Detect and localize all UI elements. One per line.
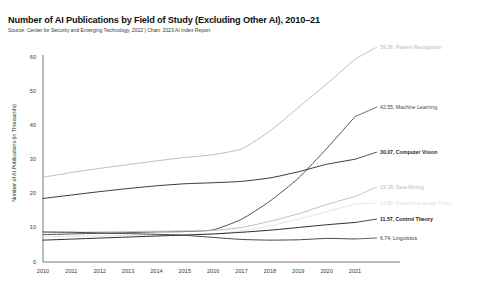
y-axis-tick: 40: [14, 122, 36, 128]
label-leader-line: [355, 107, 377, 117]
x-axis-tick: 2010: [28, 268, 58, 274]
series-end-label: 19.18, Data Mining: [380, 184, 424, 190]
label-leader-line: [355, 203, 377, 204]
x-axis-tick: 2014: [141, 268, 171, 274]
label-leader-line: [355, 152, 377, 159]
series-line: [43, 196, 355, 232]
label-leader-line: [355, 187, 377, 196]
y-axis-tick: 50: [14, 88, 36, 94]
y-axis-tick: 20: [14, 190, 36, 196]
axes: [43, 55, 400, 262]
chart-container: Number of AI Publications by Field of St…: [0, 0, 484, 286]
series-end-label: 11.57, Control Theory: [380, 216, 433, 222]
series-lines: [43, 59, 355, 240]
x-axis-tick: 2019: [283, 268, 313, 274]
y-axis-tick: 10: [14, 224, 36, 230]
series-end-label: 59.36, Pattern Recognition: [380, 44, 441, 50]
x-axis-tick: 2012: [85, 268, 115, 274]
y-axis-tick: 60: [14, 54, 36, 60]
x-axis-tick: 2015: [170, 268, 200, 274]
series-end-label: 42.55, Machine Learning: [380, 104, 437, 110]
series-end-label: 30.07, Computer Vision: [380, 149, 437, 155]
x-axis-tick: 2017: [227, 268, 257, 274]
y-axis-tick: 30: [14, 156, 36, 162]
series-line: [43, 159, 355, 198]
x-axis-tick: 2013: [113, 268, 143, 274]
series-end-label: 6.74, Linguistics: [380, 235, 417, 241]
label-leader-line: [355, 238, 377, 239]
x-axis-tick: 2020: [312, 268, 342, 274]
series-line: [43, 59, 355, 177]
series-end-label: 16.95, Natural Language Proce: [380, 200, 452, 206]
label-leader-line: [355, 219, 377, 222]
label-leader-line: [355, 47, 377, 59]
x-axis-tick: 2011: [56, 268, 86, 274]
x-axis-tick: 2018: [255, 268, 285, 274]
y-axis-tick: 0: [14, 259, 36, 265]
label-leader-lines: [355, 47, 377, 239]
x-axis-tick: 2021: [340, 268, 370, 274]
x-axis-tick: 2016: [198, 268, 228, 274]
